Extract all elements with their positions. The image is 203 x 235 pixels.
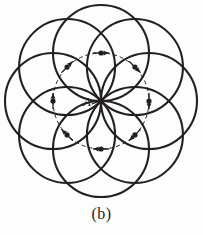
center-point-label: A <box>82 94 91 109</box>
rosette-diagram: A <box>0 0 203 235</box>
figure-caption: (b) <box>0 205 203 223</box>
figure-container: A (b) <box>0 0 203 235</box>
center-point-A-marker <box>98 98 105 105</box>
